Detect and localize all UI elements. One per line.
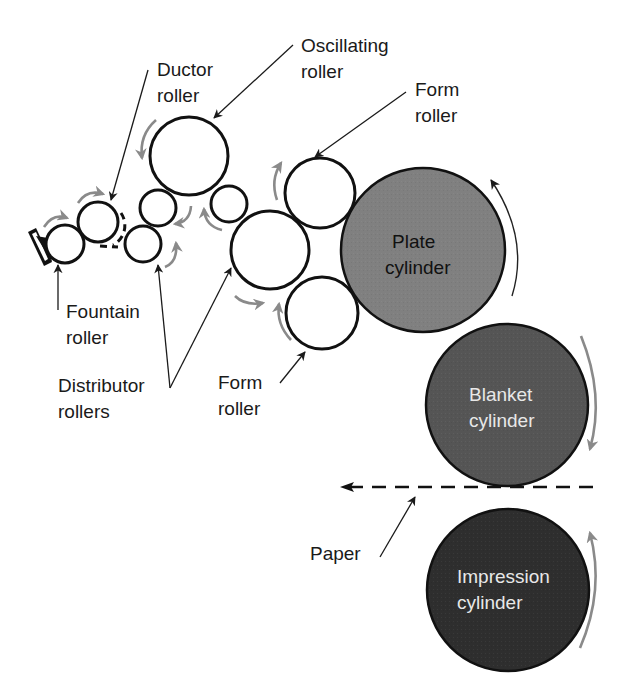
oscillating-roller xyxy=(150,117,228,195)
rotation-arrow-icon xyxy=(235,296,263,304)
plate-cylinder: Plate cylinder xyxy=(341,168,505,332)
plate-cylinder-label-2: cylinder xyxy=(385,257,451,278)
distributor-label-2: rollers xyxy=(58,401,110,422)
ductor-swing-path-lower xyxy=(100,246,118,247)
distributor-leader-1 xyxy=(158,265,170,388)
blanket-cylinder-label-2: cylinder xyxy=(469,410,535,431)
oscillating-leader xyxy=(214,45,293,118)
impression-cylinder-label-1: Impression xyxy=(457,566,550,587)
plate-cylinder-label-1: Plate xyxy=(392,231,435,252)
distributor-roller-large xyxy=(231,211,309,289)
oscillating-label-2: roller xyxy=(301,61,344,82)
form-roller-bottom xyxy=(286,277,358,349)
paper-label: Paper xyxy=(310,543,361,564)
oscillating-label-1: Oscillating xyxy=(301,35,389,56)
paper-leader xyxy=(380,497,415,557)
form-top-label-1: Form xyxy=(415,79,459,100)
blanket-cylinder: Blanket cylinder xyxy=(426,324,588,486)
impression-cylinder-label-2: cylinder xyxy=(457,592,523,613)
form-bottom-label-1: Form xyxy=(218,372,262,393)
form-roller-top xyxy=(285,158,355,228)
fountain-label-2: roller xyxy=(66,327,109,348)
distributor-roller-small-upper xyxy=(140,190,176,226)
impression-cylinder: Impression cylinder xyxy=(427,509,589,671)
ductor-label-2: roller xyxy=(157,85,200,106)
distributor-leader-2 xyxy=(170,268,231,388)
rotation-arrow-icon xyxy=(274,163,281,200)
fountain-label-1: Fountain xyxy=(66,301,140,322)
ductor-label-1: Ductor xyxy=(157,59,214,80)
fountain-roller xyxy=(46,225,84,263)
blanket-cylinder-label-1: Blanket xyxy=(469,384,533,405)
form-bottom-leader xyxy=(280,352,305,383)
distributor-roller-small-lower xyxy=(125,226,161,262)
ductor-leader xyxy=(111,70,148,200)
paper-path xyxy=(340,482,593,492)
ductor-roller xyxy=(78,202,118,242)
rotation-arrow-icon xyxy=(165,243,176,267)
form-top-leader xyxy=(315,92,406,157)
form-bottom-label-2: roller xyxy=(218,398,261,419)
form-top-label-2: roller xyxy=(415,105,458,126)
distributor-roller-small-right xyxy=(211,186,247,222)
offset-press-diagram: Plate cylinder Blanket cylinder Impressi… xyxy=(0,0,633,692)
distributor-label-1: Distributor xyxy=(58,375,145,396)
